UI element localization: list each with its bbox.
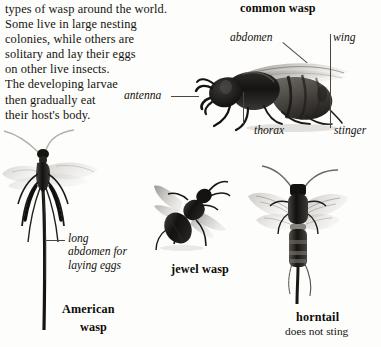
horntail-note: does not sting bbox=[285, 325, 348, 337]
common-wasp-label-wing: wing bbox=[333, 31, 356, 44]
thorax-leader-line bbox=[243, 92, 244, 124]
common-wasp-label-thorax: thorax bbox=[254, 124, 284, 137]
jewel-wasp-image bbox=[152, 172, 238, 254]
american-wasp-abdomen-label: long abdomen for laying eggs bbox=[68, 232, 127, 272]
body-text-block: types of wasp around the world. Some liv… bbox=[5, 2, 205, 123]
jewel-wasp-caption: jewel wasp bbox=[171, 262, 229, 277]
body-text-line: Some live in large nesting bbox=[5, 17, 205, 32]
american-wasp-abdomen-label-line1: long bbox=[68, 232, 89, 245]
horntail-caption: horntail bbox=[296, 310, 339, 325]
common-wasp-label-abdomen: abdomen bbox=[230, 31, 273, 44]
common-wasp-label-stinger: stinger bbox=[334, 124, 366, 137]
body-text-line: types of wasp around the world. bbox=[5, 2, 205, 17]
american-wasp-leader-line bbox=[45, 240, 65, 241]
common-wasp-caption: common wasp bbox=[240, 1, 316, 16]
body-text-line: colonies, while others are bbox=[5, 32, 205, 47]
american-wasp-abdomen-label-line2: abdomen for bbox=[68, 245, 127, 258]
common-wasp-label-antenna: antenna bbox=[124, 89, 161, 102]
horntail-image bbox=[248, 166, 352, 306]
american-wasp-caption-line1: American bbox=[62, 302, 115, 317]
american-wasp-abdomen-label-line3: laying eggs bbox=[68, 259, 121, 272]
illustration-page: types of wasp around the world. Some liv… bbox=[0, 0, 381, 347]
body-text-line: solitary and lay their eggs bbox=[5, 47, 205, 62]
antenna-leader-line bbox=[171, 96, 199, 97]
wing-vertical-leader-line bbox=[330, 34, 331, 128]
body-text-line: on other live insects. bbox=[5, 62, 205, 77]
body-text-line: their host's body. bbox=[5, 108, 205, 123]
body-text-line: then gradually eat bbox=[5, 93, 205, 108]
american-wasp-caption-line2: wasp bbox=[80, 320, 107, 335]
body-text-line: The developing larvae bbox=[5, 77, 205, 92]
